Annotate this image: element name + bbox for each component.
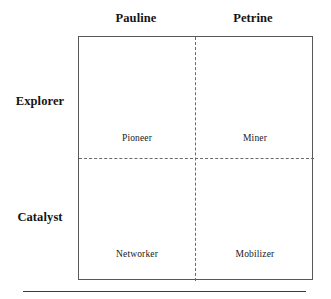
cell-label-networker: Networker <box>79 248 195 260</box>
bottom-rule <box>23 291 306 292</box>
cell-label-mobilizer: Mobilizer <box>196 248 314 260</box>
cell-label-miner: Miner <box>196 132 314 144</box>
column-header-pauline: Pauline <box>96 11 176 25</box>
row-header-catalyst: Catalyst <box>4 210 76 224</box>
column-header-petrine: Petrine <box>213 11 293 25</box>
vertical-dashed-divider <box>195 37 196 281</box>
matrix-box: Pioneer Miner Networker Mobilizer <box>78 36 313 280</box>
row-header-explorer: Explorer <box>4 94 76 108</box>
horizontal-dashed-divider <box>79 158 314 159</box>
cell-label-pioneer: Pioneer <box>79 132 195 144</box>
matrix-figure: Pauline Petrine Explorer Catalyst Pionee… <box>0 0 331 299</box>
